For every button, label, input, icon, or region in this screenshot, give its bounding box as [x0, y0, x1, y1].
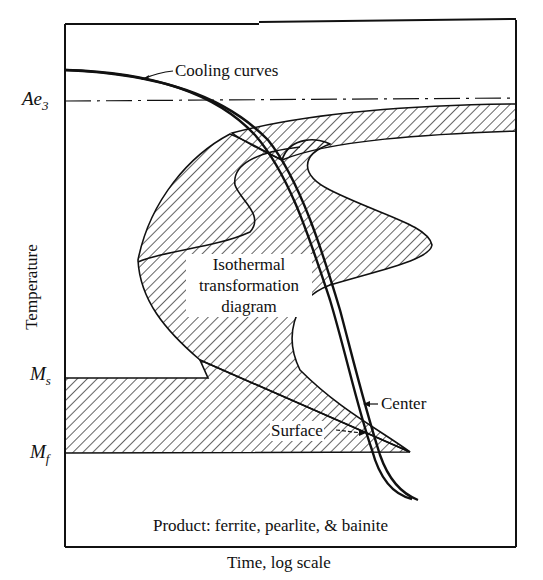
cooling-curves-label: Cooling curves — [175, 61, 278, 81]
mf-label: Mf — [30, 441, 49, 467]
ms-label: Ms — [30, 363, 51, 389]
surface-label: Surface — [270, 421, 324, 441]
ae3-label: Ae3 — [22, 88, 49, 114]
ae3-line — [65, 98, 516, 101]
itt-label: Isothermal transformation diagram — [186, 254, 312, 317]
x-axis-label: Time, log scale — [227, 553, 331, 573]
product-label: Product: ferrite, pearlite, & bainite — [153, 516, 388, 536]
center-label: Center — [381, 394, 426, 414]
y-axis-label: Temperature — [22, 237, 42, 337]
